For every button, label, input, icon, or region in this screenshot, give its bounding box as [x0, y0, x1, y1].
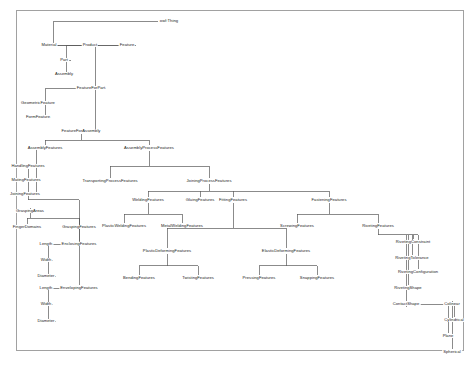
node-GeometricFeature[interactable]: GeometricFeature — [20, 101, 56, 105]
node-MetalWeldingFeatures[interactable]: MetalWeldingFeatures — [160, 224, 204, 228]
node-PlasticWeldingFeatures[interactable]: PlasticWeldingFeatures — [101, 224, 147, 228]
ontology-tree-graphic — [0, 0, 474, 371]
node-Part[interactable]: Part — [59, 58, 69, 62]
node-RivetingTolerance[interactable]: RivetingTolerance — [394, 256, 429, 260]
node-Length1[interactable]: Length — [39, 242, 54, 246]
node-owlThing[interactable]: owl:Thing — [159, 19, 179, 23]
node-GraspingFeatures[interactable]: GraspingFeatures — [61, 225, 97, 229]
node-ScrewingFeatures[interactable]: ScrewingFeatures — [279, 224, 315, 228]
node-AssemblyFeatures[interactable]: AssemblyFeatures — [27, 146, 64, 150]
node-Colinear[interactable]: Colinear — [443, 302, 461, 306]
node-GluingFeatures[interactable]: GluingFeatures — [185, 198, 216, 202]
node-JoiningProcessFeatures[interactable]: JoiningProcessFeatures — [185, 179, 232, 183]
node-Material[interactable]: Material — [41, 43, 58, 47]
diagram-canvas: owl:ThingMaterialProductFeaturePartAssem… — [0, 0, 474, 371]
node-BendingFeatures[interactable]: BendingFeatures — [122, 276, 156, 280]
node-RivetingConstraint[interactable]: RivetingConstraint — [395, 240, 431, 244]
node-Diameter1[interactable]: Diameter — [36, 274, 55, 278]
node-Plane[interactable]: Plane — [442, 334, 455, 338]
node-TwistingFeatures[interactable]: TwistingFeatures — [181, 276, 215, 280]
node-WeldingFeatures[interactable]: WeldingFeatures — [131, 198, 165, 202]
edge-layer — [27, 21, 454, 349]
node-MatingFeatures[interactable]: MatingFeatures — [10, 178, 41, 182]
node-FeatureForPart[interactable]: FeatureForPart — [76, 86, 106, 90]
node-Width1[interactable]: Width — [40, 258, 53, 262]
node-PressingFeatures[interactable]: PressingFeatures — [242, 276, 277, 280]
node-TransportingProcessFeatures[interactable]: TransportingProcessFeatures — [81, 179, 138, 183]
node-Length2[interactable]: Length — [39, 286, 54, 290]
node-FormFeature[interactable]: FormFeature — [25, 115, 51, 119]
node-Diameter2[interactable]: Diameter — [36, 319, 55, 323]
node-Product[interactable]: Product — [82, 43, 98, 47]
node-EnclosingFeatures[interactable]: EnclosingFeatures — [61, 242, 98, 246]
node-ContactShape[interactable]: ContactShape — [392, 302, 421, 306]
node-Spherical[interactable]: Spherical — [442, 350, 462, 354]
node-RivetingShape[interactable]: RivetingShape — [393, 286, 422, 290]
node-JoiningFeatures[interactable]: JoiningFeatures — [9, 192, 41, 196]
node-Width2[interactable]: Width — [40, 302, 53, 306]
node-FeatureForAssembly[interactable]: FeatureForAssembly — [61, 129, 102, 133]
node-Cylindrical[interactable]: Cylindrical — [443, 318, 464, 322]
node-FasteningFeatures[interactable]: FasteningFeatures — [311, 198, 348, 202]
node-Assembly[interactable]: Assembly — [54, 72, 74, 76]
node-EnvelopingFeatures[interactable]: EnvelopingFeatures — [59, 286, 98, 290]
node-AssemblyProcessFeatures[interactable]: AssemblyProcessFeatures — [123, 146, 175, 150]
node-Feature[interactable]: Feature — [119, 43, 135, 47]
node-RivetingFeatures[interactable]: RivetingFeatures — [361, 224, 395, 228]
node-PlasticDeformingFeatures[interactable]: PlasticDeformingFeatures — [142, 249, 192, 253]
node-FittingFeatures[interactable]: FittingFeatures — [218, 198, 248, 202]
node-ElasticDeformingFeatures[interactable]: ElasticDeformingFeatures — [261, 249, 311, 253]
node-HandlingFeatures[interactable]: HandlingFeatures — [10, 164, 45, 168]
node-RivetingConfiguration[interactable]: RivetingConfiguration — [397, 270, 439, 274]
node-GraspingAreas[interactable]: GraspingAreas — [15, 209, 45, 213]
node-SnappingFeatures[interactable]: SnappingFeatures — [299, 276, 335, 280]
node-FingerDomains[interactable]: FingerDomains — [12, 225, 42, 229]
